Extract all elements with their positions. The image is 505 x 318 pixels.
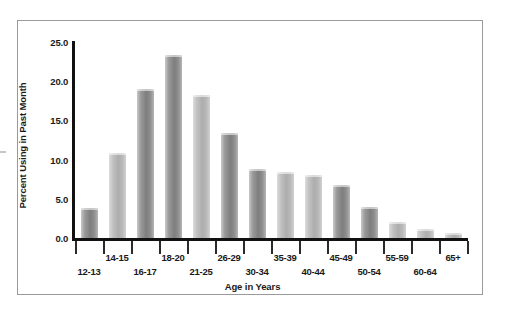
bar-highlight: [389, 222, 406, 224]
x-axis-tick: [299, 241, 301, 254]
bar-highlight: [81, 208, 98, 210]
y-axis-tick-labels: 0.05.010.015.020.025.0: [20, 0, 68, 318]
x-tick-label: 26-29: [218, 252, 241, 263]
bar: [81, 208, 98, 238]
bar: [277, 172, 294, 238]
bar: [249, 169, 266, 238]
y-tick-label: 5.0: [22, 193, 68, 204]
x-axis-tick: [103, 241, 105, 254]
x-tick-label: 21-25: [190, 266, 213, 277]
x-tick-label: 45-49: [330, 252, 353, 263]
x-axis-tick: [131, 241, 133, 254]
bar-highlight: [137, 89, 154, 91]
x-tick-label: 65+: [445, 252, 460, 263]
bar-highlight: [221, 133, 238, 135]
x-tick-label: 35-39: [274, 252, 297, 263]
x-axis-tick: [439, 241, 441, 254]
x-axis-tick: [75, 241, 77, 254]
bar: [137, 89, 154, 238]
x-tick-label: 30-34: [246, 266, 269, 277]
figure: Percent Using in Past Month 0.05.010.015…: [0, 0, 505, 318]
x-axis-tick: [271, 241, 273, 254]
bar: [361, 207, 378, 238]
bar-highlight: [109, 153, 126, 155]
y-tick-label: 15.0: [22, 115, 68, 126]
y-tick-label: 25.0: [22, 37, 68, 48]
x-tick-label: 50-54: [358, 266, 381, 277]
bar-highlight: [249, 169, 266, 171]
bar: [389, 222, 406, 238]
x-axis-tick: [383, 241, 385, 254]
x-axis-tick: [411, 241, 413, 254]
x-axis-title: Age in Years: [0, 281, 505, 292]
y-tick-label: 10.0: [22, 154, 68, 165]
x-tick-label: 14-15: [106, 252, 129, 263]
x-axis-tick: [187, 241, 189, 254]
x-axis-tick: [159, 241, 161, 254]
bar: [221, 133, 238, 238]
bar: [109, 153, 126, 238]
bar-highlight: [361, 207, 378, 209]
x-axis-tick: [243, 241, 245, 254]
bar-highlight: [193, 95, 210, 97]
bar: [417, 229, 434, 238]
plot-area: [75, 42, 467, 238]
bar-highlight: [277, 172, 294, 174]
x-tick-label: 18-20: [162, 252, 185, 263]
y-tick-label: 20.0: [22, 76, 68, 87]
scan-artifact: [0, 151, 6, 153]
bar: [445, 233, 462, 238]
bar: [165, 55, 182, 238]
x-tick-label: 40-44: [302, 266, 325, 277]
bar-highlight: [333, 185, 350, 187]
y-tick-label: 0.0: [22, 233, 68, 244]
x-axis-tick: [327, 241, 329, 254]
x-axis-tick: [467, 241, 469, 254]
bar: [333, 185, 350, 238]
x-axis-tick: [355, 241, 357, 254]
bar: [305, 175, 322, 239]
bar-highlight: [305, 175, 322, 177]
bar-highlight: [417, 229, 434, 231]
x-tick-label: 16-17: [134, 266, 157, 277]
x-tick-label: 12-13: [78, 266, 101, 277]
x-tick-label: 60-64: [414, 266, 437, 277]
bar: [193, 95, 210, 238]
bar-highlight: [445, 233, 462, 235]
x-tick-label: 55-59: [386, 252, 409, 263]
x-axis-tick: [215, 241, 217, 254]
bar-highlight: [165, 55, 182, 57]
